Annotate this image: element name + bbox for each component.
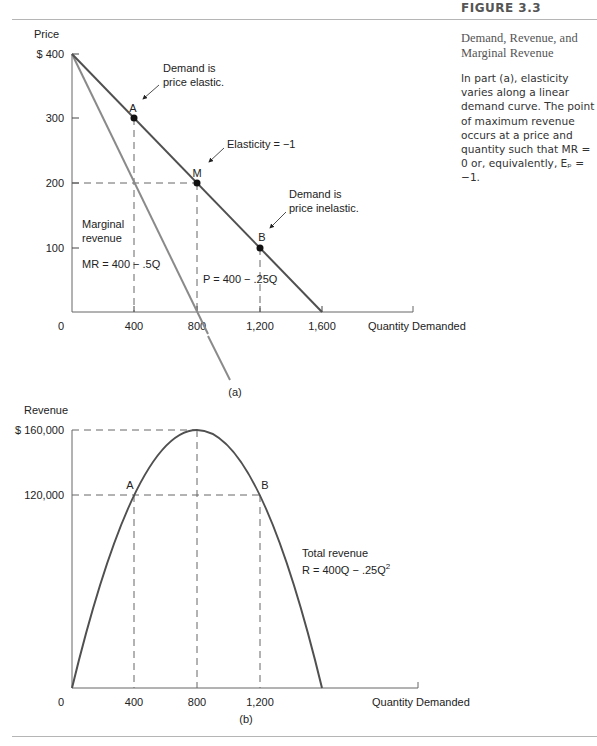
- elastic-arrow-icon: [143, 85, 159, 99]
- svg-text:1,200: 1,200: [246, 320, 274, 332]
- svg-text:$ 400: $ 400: [36, 48, 64, 60]
- elasticity-annotation: Elasticity = −1: [227, 138, 295, 150]
- x-axis-label: Quantity Demanded: [368, 320, 466, 332]
- total-revenue-label: Total revenue: [302, 547, 368, 559]
- svg-text:800: 800: [188, 696, 206, 708]
- mr-label-1: Marginal: [82, 218, 124, 230]
- y-axis-label: Revenue: [24, 404, 68, 416]
- mr-label-2: revenue: [82, 232, 122, 244]
- inelastic-arrow-icon: [270, 212, 286, 228]
- svg-text:$ 160,000: $ 160,000: [15, 424, 64, 436]
- elastic-annotation-2: price elastic.: [163, 76, 224, 88]
- y-axis-label: Price: [34, 28, 59, 40]
- figure-graphics: Price $ 400 300 200 100 0 400 800: [0, 0, 597, 746]
- svg-text:400: 400: [125, 696, 143, 708]
- svg-text:120,000: 120,000: [24, 489, 64, 501]
- point-b-label: B: [258, 231, 265, 243]
- mr-equation: MR = 400 − .5Q: [82, 258, 161, 270]
- point-b: [257, 245, 264, 252]
- panel-a-label: (a): [228, 386, 241, 398]
- x-ticks: [134, 306, 322, 312]
- inelastic-annotation-1: Demand is: [289, 188, 342, 200]
- svg-text:100: 100: [46, 242, 64, 254]
- elasticity-arrow-icon: [209, 148, 224, 162]
- svg-text:1,200: 1,200: [246, 696, 274, 708]
- panel-b-label: (b): [239, 713, 252, 725]
- mr-curve: [72, 54, 208, 334]
- svg-text:300: 300: [46, 112, 64, 124]
- mr-curve-extension: [208, 336, 230, 380]
- svg-text:200: 200: [46, 177, 64, 189]
- x-axis-label: Quantity Demanded: [372, 696, 470, 708]
- svg-text:1,600: 1,600: [308, 320, 336, 332]
- point-a: [131, 115, 138, 122]
- panel-a: Price $ 400 300 200 100 0 400 800: [34, 28, 466, 398]
- svg-text:0: 0: [58, 320, 64, 332]
- point-m-label: M: [192, 167, 201, 179]
- guide-lines: [72, 430, 260, 688]
- y-tick-labels: $ 160,000 120,000: [15, 424, 64, 501]
- elastic-annotation-1: Demand is: [163, 62, 216, 74]
- point-a-label: A: [129, 102, 137, 114]
- y-ticks: [72, 54, 79, 248]
- point-m: [194, 180, 201, 187]
- x-tick-labels: 0 400 800 1,200 1,600: [58, 320, 336, 332]
- inelastic-annotation-2: price inelastic.: [289, 202, 359, 214]
- total-revenue-equation: R = 400Q − .25Q2: [302, 562, 391, 576]
- svg-text:0: 0: [58, 696, 64, 708]
- point-a-label: A: [126, 479, 134, 491]
- demand-equation: P = 400 − .25Q: [203, 273, 278, 285]
- panel-b: Revenue $ 160,000 120,000 0 400 800 1,20…: [15, 404, 470, 725]
- svg-text:400: 400: [125, 320, 143, 332]
- y-tick-labels: $ 400 300 200 100: [36, 48, 64, 254]
- x-tick-labels: 0 400 800 1,200: [58, 696, 274, 708]
- point-b-label: B: [261, 479, 268, 491]
